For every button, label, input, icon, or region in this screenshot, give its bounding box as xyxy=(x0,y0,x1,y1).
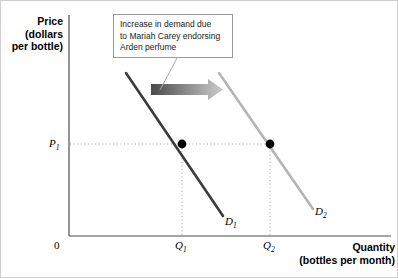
curve-d2-sub: 2 xyxy=(323,211,327,220)
demand-curve-d2 xyxy=(219,73,313,209)
demand-shift-arrow xyxy=(151,79,223,100)
callout-line-3: Arden perfume xyxy=(120,42,176,52)
x-tick-label-q1: Q1 xyxy=(175,239,187,254)
origin-label: 0 xyxy=(54,239,60,251)
y-tick-p1-base: P xyxy=(49,137,56,149)
y-axis-title-line2: (dollars xyxy=(25,28,63,40)
x-tick-label-q2: Q2 xyxy=(263,239,275,254)
x-axis-title-line2: (bottles per month) xyxy=(299,254,395,266)
x-tick-q2-sub: 2 xyxy=(271,245,275,254)
x-axis-title-line1: Quantity xyxy=(352,241,395,253)
curve-d1-sub: 1 xyxy=(233,221,237,230)
curve-label-d1: D1 xyxy=(225,215,237,230)
callout-line-1: Increase in demand due xyxy=(120,19,211,29)
y-tick-p1-sub: 1 xyxy=(56,143,60,152)
curve-d2-base: D xyxy=(315,205,323,217)
chart-figure: Price (dollars per bottle) Quantity (bot… xyxy=(0,0,398,278)
callout-line-2: to Mariah Carey endorsing xyxy=(120,31,220,41)
equilibrium-point-1 xyxy=(178,140,187,149)
x-tick-q1-base: Q xyxy=(175,239,183,251)
demand-shift-callout: Increase in demand due to Mariah Carey e… xyxy=(113,14,233,58)
y-axis-title-line1: Price xyxy=(37,15,63,27)
x-axis-title: Quantity (bottles per month) xyxy=(269,241,395,266)
x-tick-q1-sub: 1 xyxy=(183,245,187,254)
equilibrium-point-2 xyxy=(266,140,275,149)
curve-d1-base: D xyxy=(225,215,233,227)
curve-label-d2: D2 xyxy=(315,205,327,220)
y-axis-title-line3: per bottle) xyxy=(12,40,63,52)
y-axis-title: Price (dollars per bottle) xyxy=(1,15,63,53)
y-tick-label-p1: P1 xyxy=(49,137,59,152)
x-tick-q2-base: Q xyxy=(263,239,271,251)
